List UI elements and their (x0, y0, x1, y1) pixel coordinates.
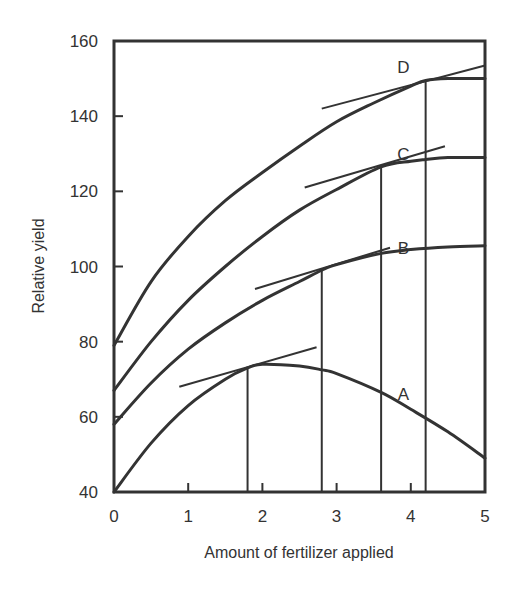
y-tick-label: 140 (70, 107, 98, 126)
x-tick-label: 1 (183, 507, 192, 526)
fertilizer-yield-chart: 406080100120140160 012345 ABCD Relative … (0, 0, 514, 591)
y-tick-label: 80 (79, 333, 98, 352)
x-tick-label: 2 (258, 507, 267, 526)
x-tick-label: 5 (480, 507, 489, 526)
curve-label-d: D (397, 58, 409, 77)
curve-label-c: C (397, 145, 409, 164)
x-axis-title: Amount of fertilizer applied (204, 544, 393, 561)
curve-label-a: A (398, 385, 410, 404)
x-axis-ticks: 012345 (109, 483, 489, 526)
y-tick-label: 160 (70, 32, 98, 51)
x-tick-label: 3 (332, 507, 341, 526)
curve-d (114, 78, 485, 345)
x-tick-label: 0 (109, 507, 118, 526)
x-tick-label: 4 (406, 507, 415, 526)
curve-c (114, 157, 485, 390)
y-axis-title: Relative yield (30, 218, 47, 313)
curve-label-b: B (398, 239, 409, 258)
y-tick-label: 60 (79, 408, 98, 427)
y-tick-label: 100 (70, 258, 98, 277)
tangent-lines (179, 65, 485, 386)
yield-curves (114, 78, 485, 492)
tangent-line-c (305, 146, 445, 187)
curve-labels: ABCD (397, 58, 409, 404)
curve-b (114, 246, 485, 425)
curve-a (114, 364, 485, 492)
optimum-drop-lines (248, 80, 426, 492)
y-tick-label: 120 (70, 182, 98, 201)
y-tick-label: 40 (79, 483, 98, 502)
